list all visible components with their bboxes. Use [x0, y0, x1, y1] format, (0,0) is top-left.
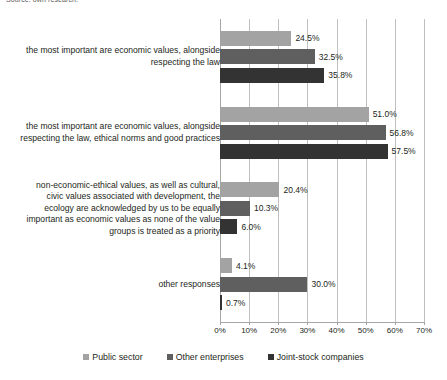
- bar: [220, 258, 232, 273]
- bar: [220, 277, 307, 292]
- bar: [220, 219, 237, 234]
- bar-value-label: 0.7%: [222, 298, 245, 308]
- x-tick-label: 20%: [263, 326, 293, 335]
- legend-swatch-icon: [268, 354, 274, 360]
- x-tick-label: 30%: [292, 326, 322, 335]
- bar: [220, 49, 315, 64]
- bar-group-3-series-1: 20.4%: [220, 182, 424, 197]
- x-tick: [424, 322, 425, 325]
- bar: [220, 107, 369, 122]
- bar-value-label: 20.4%: [279, 185, 307, 195]
- bar-value-label: 35.8%: [324, 70, 352, 80]
- bar-group-3-series-3: 6.0%: [220, 219, 424, 234]
- bar-value-label: 51.0%: [369, 109, 397, 119]
- bar: [220, 144, 388, 159]
- bar-value-label: 4.1%: [232, 261, 255, 271]
- bar-value-label: 10.3%: [250, 203, 278, 213]
- chart-legend: Public sectorOther enterprisesJoint-stoc…: [0, 352, 447, 362]
- legend-swatch-icon: [167, 354, 173, 360]
- bar-group-2-series-1: 51.0%: [220, 107, 424, 122]
- bar: [220, 31, 291, 46]
- bar-group-4-series-1: 4.1%: [220, 258, 424, 273]
- x-tick: [307, 322, 308, 325]
- bar: [220, 201, 250, 216]
- x-tick: [278, 322, 279, 325]
- x-tick: [395, 322, 396, 325]
- bar-group-2-series-2: 56.8%: [220, 125, 424, 140]
- bar-group-4-series-3: 0.7%: [220, 295, 424, 310]
- legend-label: Joint-stock companies: [277, 352, 364, 362]
- bar-value-label: 57.5%: [388, 146, 416, 156]
- grouped-bar-chart: 24.5%32.5%35.8%51.0%56.8%57.5%20.4%10.3%…: [0, 0, 447, 380]
- bar-group-1-series-3: 35.8%: [220, 68, 424, 83]
- category-label-4: other responses: [20, 279, 220, 290]
- category-label-2: the most important are economic values, …: [20, 121, 220, 144]
- bar-value-label: 6.0%: [237, 222, 260, 232]
- legend-item-public-sector[interactable]: Public sector: [83, 352, 142, 362]
- bar-group-1-series-2: 32.5%: [220, 49, 424, 64]
- bar-group-4-series-2: 30.0%: [220, 277, 424, 292]
- x-tick-label: 40%: [322, 326, 352, 335]
- x-tick: [249, 322, 250, 325]
- category-label-3: non-economic-ethical values, as well as …: [20, 180, 220, 237]
- legend-item-joint-stock-companies[interactable]: Joint-stock companies: [268, 352, 364, 362]
- x-tick-label: 10%: [234, 326, 264, 335]
- legend-swatch-icon: [83, 354, 89, 360]
- x-tick: [337, 322, 338, 325]
- bar-value-label: 30.0%: [307, 279, 335, 289]
- x-tick: [366, 322, 367, 325]
- legend-label: Public sector: [92, 352, 142, 362]
- bar-value-label: 56.8%: [386, 128, 414, 138]
- x-tick-label: 70%: [409, 326, 439, 335]
- x-tick-label: 60%: [380, 326, 410, 335]
- bar: [220, 182, 279, 197]
- x-tick: [220, 322, 221, 325]
- legend-item-other-enterprises[interactable]: Other enterprises: [167, 352, 244, 362]
- bar: [220, 68, 324, 83]
- bar: [220, 125, 386, 140]
- bar-group-1-series-1: 24.5%: [220, 31, 424, 46]
- x-tick-label: 0%: [205, 326, 235, 335]
- bar-value-label: 24.5%: [291, 33, 319, 43]
- category-label-1: the most important are economic values, …: [20, 45, 220, 68]
- legend-label: Other enterprises: [176, 352, 244, 362]
- x-tick-label: 50%: [351, 326, 381, 335]
- bar-group-3-series-2: 10.3%: [220, 201, 424, 216]
- bar-group-2-series-3: 57.5%: [220, 144, 424, 159]
- plot-area: 24.5%32.5%35.8%51.0%56.8%57.5%20.4%10.3%…: [220, 19, 424, 322]
- gridline-70%: [424, 19, 425, 322]
- bar-value-label: 32.5%: [315, 52, 343, 62]
